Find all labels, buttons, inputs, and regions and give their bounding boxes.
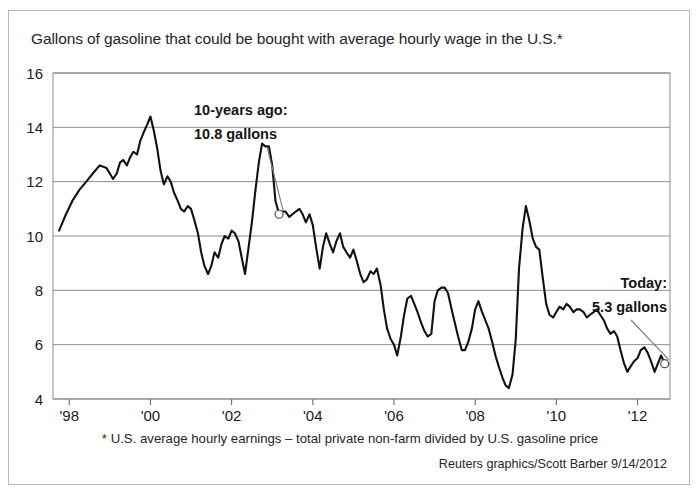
data-series-line: [59, 116, 665, 388]
gridlines-group: [53, 73, 670, 399]
data-point-marker-today: [661, 360, 669, 368]
y-tick-label: 8: [35, 282, 43, 299]
annotation-label-today-line2: 5.3 gallons: [592, 299, 667, 315]
y-tick-label: 14: [26, 119, 43, 136]
x-tick-label: '98: [59, 407, 79, 424]
annotation-label-ten-years-ago-line2: 10.8 gallons: [194, 126, 277, 142]
x-tick-label: '08: [465, 407, 485, 424]
x-tick-label: '06: [384, 407, 404, 424]
y-axis-tick-labels: 46810121416: [26, 65, 43, 408]
x-tick-label: '02: [222, 407, 242, 424]
y-tick-label: 4: [35, 391, 43, 408]
y-tick-label: 12: [26, 173, 43, 190]
line-chart-svg: 46810121416 '98'00'02'04'06'08'10'12 10-…: [9, 11, 691, 486]
x-axis-tick-marks: [69, 399, 637, 405]
y-tick-label: 6: [35, 336, 43, 353]
x-tick-label: '10: [547, 407, 567, 424]
x-tick-label: '00: [141, 407, 161, 424]
plot-area: 46810121416 '98'00'02'04'06'08'10'12 10-…: [9, 11, 691, 486]
y-tick-label: 10: [26, 228, 43, 245]
x-tick-label: '04: [303, 407, 323, 424]
annotation-label-ten-years-ago-line1: 10-years ago:: [194, 102, 288, 118]
x-axis-tick-labels: '98'00'02'04'06'08'10'12: [59, 407, 647, 424]
data-point-marker-ten-years-ago: [275, 210, 283, 218]
credit-line: Reuters graphics/Scott Barber 9/14/2012: [439, 457, 667, 471]
footnote: * U.S. average hourly earnings – total p…: [9, 431, 691, 446]
annotation-label-today-line1: Today:: [621, 275, 667, 291]
y-tick-label: 16: [26, 65, 43, 82]
x-tick-label: '12: [628, 407, 648, 424]
chart-figure: Gallons of gasoline that could be bought…: [8, 10, 690, 485]
annotation-leader-line-today: [631, 320, 669, 360]
